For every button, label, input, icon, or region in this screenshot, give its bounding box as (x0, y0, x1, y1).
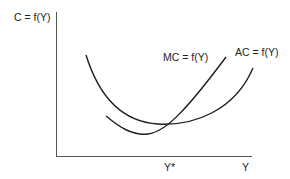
ac-curve (86, 55, 253, 124)
ac-curve-label: AC = f(Y) (235, 47, 278, 58)
x-marker-label: Y* (164, 162, 175, 173)
cost-curves-diagram: C = f(Y) MC = f(Y) AC = f(Y) Y* Y (0, 0, 290, 179)
mc-curve (106, 57, 226, 134)
x-axis-label: Y (242, 162, 249, 173)
y-axis-label: C = f(Y) (14, 12, 50, 23)
mc-curve-label: MC = f(Y) (163, 52, 208, 63)
diagram-canvas (0, 0, 290, 179)
